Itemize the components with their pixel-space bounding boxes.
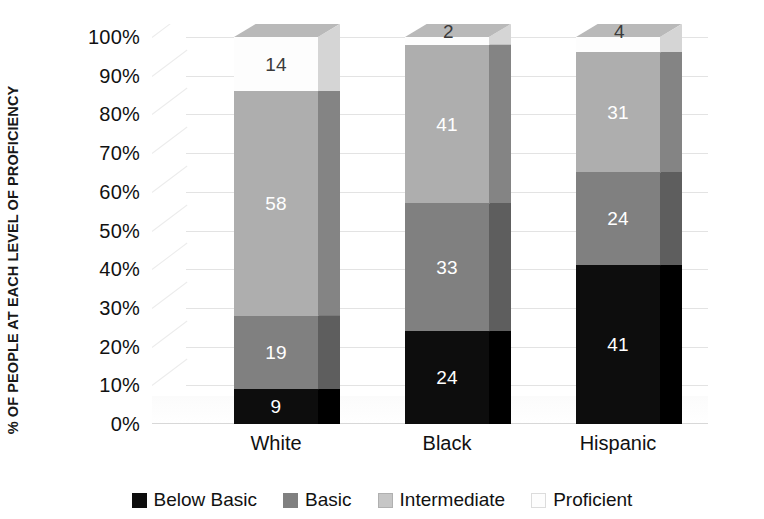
segment-front-face: 14 bbox=[234, 37, 318, 91]
segment-side-face bbox=[318, 78, 340, 315]
legend-label: Proficient bbox=[553, 489, 632, 511]
segment-front-face: 4 bbox=[576, 37, 660, 52]
y-axis-tick-40: 40% bbox=[99, 258, 140, 281]
y-axis-tick-80: 80% bbox=[99, 103, 140, 126]
bar-white[interactable]: 9195814 bbox=[234, 37, 318, 424]
segment-value-label: 24 bbox=[436, 368, 458, 387]
segment-value-label: 33 bbox=[436, 258, 458, 277]
bar-segment-hispanic-proficient[interactable]: 4 bbox=[576, 37, 660, 52]
segment-value-label: 14 bbox=[265, 55, 287, 74]
segment-value-label: 9 bbox=[271, 397, 282, 416]
segment-front-face: 58 bbox=[234, 91, 318, 315]
y-axis-tick-90: 90% bbox=[99, 64, 140, 87]
y-axis-tick-60: 60% bbox=[99, 180, 140, 203]
y-axis-tick-0: 0% bbox=[111, 413, 140, 436]
segment-value-label: 58 bbox=[265, 194, 287, 213]
segment-front-face: 24 bbox=[405, 331, 489, 424]
bar-segment-white-below-basic[interactable]: 9 bbox=[234, 389, 318, 424]
segment-front-face: 9 bbox=[234, 389, 318, 424]
bar-group: 919581424334124124314 bbox=[152, 24, 708, 424]
stacked-bar-chart: % OF PEOPLE AT EACH LEVEL OF PROFICIENCY… bbox=[0, 0, 764, 519]
segment-front-face: 41 bbox=[405, 45, 489, 204]
x-axis-label-black: Black bbox=[423, 432, 472, 455]
segment-side-face bbox=[489, 318, 511, 424]
segment-side-face bbox=[489, 32, 511, 204]
y-axis-tick-labels: 0%10%20%30%40%50%60%70%80%90%100% bbox=[26, 0, 146, 519]
segment-value-label: 19 bbox=[265, 343, 287, 362]
bar-segment-black-intermediate[interactable]: 41 bbox=[405, 45, 489, 204]
x-axis-label-white: White bbox=[250, 432, 301, 455]
bar-segment-black-below-basic[interactable]: 24 bbox=[405, 331, 489, 424]
legend-swatch-icon bbox=[378, 493, 393, 508]
plot-area: 919581424334124124314 bbox=[152, 24, 708, 424]
segment-front-face: 2 bbox=[405, 37, 489, 45]
segment-value-label: 41 bbox=[607, 335, 629, 354]
legend-label: Below Basic bbox=[154, 489, 258, 511]
y-axis-tick-50: 50% bbox=[99, 219, 140, 242]
legend-item-below-basic[interactable]: Below Basic bbox=[132, 489, 258, 511]
segment-value-label: 41 bbox=[436, 115, 458, 134]
legend-label: Intermediate bbox=[400, 489, 506, 511]
segment-side-face bbox=[660, 39, 682, 172]
legend-swatch-icon bbox=[132, 493, 147, 508]
segment-side-face bbox=[660, 159, 682, 265]
y-axis-title: % OF PEOPLE AT EACH LEVEL OF PROFICIENCY bbox=[5, 85, 21, 434]
segment-value-label: 31 bbox=[607, 103, 629, 122]
y-axis-title-container: % OF PEOPLE AT EACH LEVEL OF PROFICIENCY bbox=[0, 0, 26, 519]
segment-front-face: 41 bbox=[576, 265, 660, 424]
x-axis-category-labels: WhiteBlackHispanic bbox=[152, 432, 708, 466]
legend-item-proficient[interactable]: Proficient bbox=[531, 489, 632, 511]
segment-front-face: 24 bbox=[576, 172, 660, 265]
bar-hispanic[interactable]: 4124314 bbox=[576, 37, 660, 424]
segment-side-face bbox=[489, 190, 511, 331]
chart-legend: Below BasicBasicIntermediateProficient bbox=[0, 484, 764, 516]
segment-front-face: 33 bbox=[405, 203, 489, 331]
legend-item-basic[interactable]: Basic bbox=[283, 489, 351, 511]
bar-segment-hispanic-basic[interactable]: 24 bbox=[576, 172, 660, 265]
bar-segment-hispanic-below-basic[interactable]: 41 bbox=[576, 265, 660, 424]
segment-front-face: 19 bbox=[234, 316, 318, 390]
y-axis-tick-10: 10% bbox=[99, 374, 140, 397]
y-axis-tick-30: 30% bbox=[99, 296, 140, 319]
y-axis-tick-20: 20% bbox=[99, 335, 140, 358]
bar-segment-hispanic-intermediate[interactable]: 31 bbox=[576, 52, 660, 172]
bar-segment-white-proficient[interactable]: 14 bbox=[234, 37, 318, 91]
legend-swatch-icon bbox=[283, 493, 298, 508]
legend-item-intermediate[interactable]: Intermediate bbox=[378, 489, 506, 511]
segment-front-face: 31 bbox=[576, 52, 660, 172]
x-axis-label-hispanic: Hispanic bbox=[580, 432, 657, 455]
segment-side-face bbox=[660, 252, 682, 424]
segment-value-label: 24 bbox=[607, 209, 629, 228]
bar-segment-white-basic[interactable]: 19 bbox=[234, 316, 318, 390]
legend-swatch-icon bbox=[531, 493, 546, 508]
bar-segment-black-proficient[interactable]: 2 bbox=[405, 37, 489, 45]
bar-segment-black-basic[interactable]: 33 bbox=[405, 203, 489, 331]
bar-segment-white-intermediate[interactable]: 58 bbox=[234, 91, 318, 315]
y-axis-tick-70: 70% bbox=[99, 142, 140, 165]
legend-label: Basic bbox=[305, 489, 351, 511]
y-axis-tick-100: 100% bbox=[88, 26, 140, 49]
bar-black[interactable]: 2433412 bbox=[405, 37, 489, 424]
